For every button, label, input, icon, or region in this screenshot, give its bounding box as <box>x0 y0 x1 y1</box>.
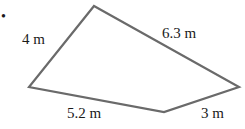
quadrilateral-diagram: • 4 m 6.3 m 5.2 m 3 m <box>0 0 245 129</box>
side-label-top-right: 6.3 m <box>162 26 196 41</box>
bullet-marker: • <box>1 10 6 24</box>
side-label-top-left: 4 m <box>22 32 45 47</box>
side-label-bottom-right: 3 m <box>201 106 224 121</box>
side-label-bottom-left: 5.2 m <box>67 106 101 121</box>
quadrilateral-outline <box>29 6 239 112</box>
